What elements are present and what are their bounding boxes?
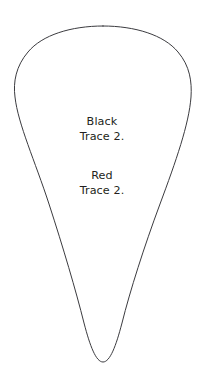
red-trace-label-group: Red Trace 2. [0, 169, 204, 198]
black-label-color-name: Black [0, 115, 204, 130]
red-label-color-name: Red [0, 169, 204, 184]
template-canvas: Black Trace 2. Red Trace 2. [0, 0, 204, 386]
black-label-trace-number: Trace 2. [0, 130, 204, 145]
black-trace-label-group: Black Trace 2. [0, 115, 204, 144]
red-label-trace-number: Trace 2. [0, 184, 204, 199]
